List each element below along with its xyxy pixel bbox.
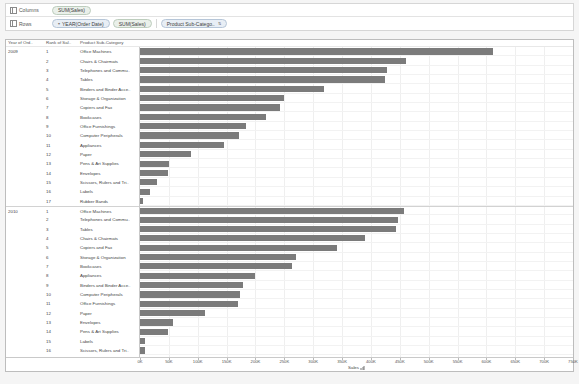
bar-mark[interactable] (140, 301, 238, 307)
bar-row[interactable] (140, 47, 573, 56)
table-row[interactable]: 14Pens & Art Supplies (6, 327, 139, 336)
bar-mark[interactable] (140, 142, 224, 148)
pill-product-sub-category[interactable]: Product Sub-Catego.. ⇅ (161, 19, 227, 28)
bar-mark[interactable] (140, 179, 157, 185)
bar-mark[interactable] (140, 208, 404, 214)
table-row[interactable]: 3Tables (6, 225, 139, 234)
sort-descending-icon[interactable] (361, 366, 365, 370)
bar-row[interactable] (140, 206, 573, 215)
bar-row[interactable] (140, 159, 573, 168)
table-row[interactable]: 12Paper (6, 150, 139, 159)
bar-mark[interactable] (140, 123, 246, 129)
bar-row[interactable] (140, 131, 573, 140)
bar-row[interactable] (140, 234, 573, 243)
bar-mark[interactable] (140, 235, 365, 241)
bar-row[interactable] (140, 355, 573, 357)
bar-row[interactable] (140, 225, 573, 234)
columns-shelf[interactable]: Columns SUM(Sales) (6, 4, 573, 17)
bar-mark[interactable] (140, 132, 239, 138)
bar-row[interactable] (140, 215, 573, 224)
bar-mark[interactable] (140, 151, 191, 157)
table-row[interactable]: 5Copiers and Fax (6, 243, 139, 252)
table-row[interactable]: 5Binders and Binder Acce.. (6, 84, 139, 93)
bar-mark[interactable] (140, 263, 292, 269)
table-row[interactable]: 14Envelopes (6, 168, 139, 177)
table-row[interactable]: 15Scissors, Rulers and Tri.. (6, 178, 139, 187)
table-row[interactable]: 7Copiers and Fax (6, 103, 139, 112)
table-row[interactable]: 6Storage & Organization (6, 253, 139, 262)
bar-mark[interactable] (140, 104, 280, 110)
table-row[interactable]: 3Telephones and Commu.. (6, 66, 139, 75)
table-row[interactable]: 17Rubber Bands (6, 197, 139, 206)
bar-mark[interactable] (140, 245, 337, 251)
bar-row[interactable] (140, 243, 573, 252)
bar-mark[interactable] (140, 338, 145, 344)
bar-row[interactable] (140, 271, 573, 280)
bar-row[interactable] (140, 253, 573, 262)
table-row[interactable]: 11Office Furnishings (6, 299, 139, 308)
rows-shelf[interactable]: Rows ▾ YEAR(Order Date) SUM(Sales) Produ… (6, 17, 573, 30)
bar-mark[interactable] (140, 76, 385, 82)
bar-row[interactable] (140, 318, 573, 327)
bar-row[interactable] (140, 262, 573, 271)
bar-row[interactable] (140, 337, 573, 346)
bar-mark[interactable] (140, 329, 168, 335)
table-row[interactable]: 11Appliances (6, 140, 139, 149)
bar-row[interactable] (140, 327, 573, 336)
table-row[interactable]: 2Telephones and Commu.. (6, 215, 139, 224)
axis-scale[interactable]: Sales 0K50K100K150K200K250K300K350K400K4… (140, 358, 573, 371)
bar-mark[interactable] (140, 161, 169, 167)
bar-row[interactable] (140, 281, 573, 290)
bar-row[interactable] (140, 112, 573, 121)
table-row[interactable]: 8Bookcases (6, 112, 139, 121)
bar-mark[interactable] (140, 58, 406, 64)
bar-row[interactable] (140, 197, 573, 206)
bar-row[interactable] (140, 309, 573, 318)
bar-row[interactable] (140, 299, 573, 308)
bar-row[interactable] (140, 346, 573, 355)
bar-mark[interactable] (140, 226, 396, 232)
table-row[interactable]: 13Pens & Art Supplies (6, 159, 139, 168)
bar-row[interactable] (140, 103, 573, 112)
bar-row[interactable] (140, 168, 573, 177)
table-row[interactable]: 12Paper (6, 309, 139, 318)
table-row[interactable]: 20091Office Machines (6, 47, 139, 56)
table-row[interactable]: 7Bookcases (6, 262, 139, 271)
bar-mark[interactable] (140, 114, 266, 120)
bar-row[interactable] (140, 56, 573, 65)
bar-row[interactable] (140, 140, 573, 149)
bar-row[interactable] (140, 75, 573, 84)
bar-mark[interactable] (140, 282, 243, 288)
bar-mark[interactable] (140, 48, 493, 54)
table-row[interactable]: 6Storage & Organization (6, 94, 139, 103)
bar-mark[interactable] (140, 319, 173, 325)
bar-row[interactable] (140, 178, 573, 187)
pill-sum-sales-columns[interactable]: SUM(Sales) (52, 6, 91, 15)
bar-mark[interactable] (140, 86, 324, 92)
table-row[interactable]: 4Tables (6, 75, 139, 84)
table-row[interactable]: 4Chairs & Chairmats (6, 234, 139, 243)
bar-mark[interactable] (140, 170, 168, 176)
bar-mark[interactable] (140, 273, 255, 279)
bar-mark[interactable] (140, 254, 296, 260)
axis-title[interactable]: Sales (348, 365, 365, 370)
bar-mark[interactable] (140, 310, 205, 316)
table-row[interactable]: 20101Office Machines (6, 206, 139, 215)
bar-row[interactable] (140, 84, 573, 93)
bar-mark[interactable] (140, 217, 398, 223)
bar-mark[interactable] (140, 291, 240, 297)
pill-sum-sales-rows[interactable]: SUM(Sales) (113, 19, 152, 28)
table-row[interactable]: 10Computer Peripherals (6, 290, 139, 299)
bar-mark[interactable] (140, 198, 143, 204)
table-row[interactable]: 15Labels (6, 337, 139, 346)
bar-row[interactable] (140, 122, 573, 131)
table-row[interactable]: 13Envelopes (6, 318, 139, 327)
bar-mark[interactable] (140, 347, 145, 353)
table-row[interactable]: 2Chairs & Chairmats (6, 56, 139, 65)
table-row[interactable]: 9Binders and Binder Acce.. (6, 281, 139, 290)
table-row[interactable]: 10Computer Peripherals (6, 131, 139, 140)
bar-mark[interactable] (140, 189, 150, 195)
bar-mark[interactable] (140, 67, 387, 73)
bar-row[interactable] (140, 187, 573, 196)
bar-mark[interactable] (140, 95, 284, 101)
